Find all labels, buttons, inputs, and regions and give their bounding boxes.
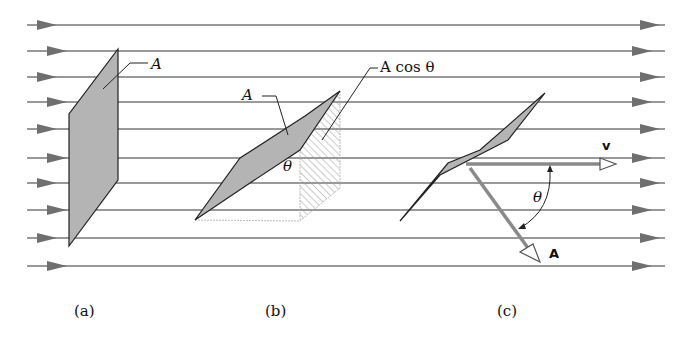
label-projection: A cos θ — [380, 58, 435, 76]
area-c — [400, 93, 545, 221]
label-velocity: v — [602, 138, 610, 153]
label-area-vector: A — [549, 246, 559, 261]
area-vector-arrowhead — [520, 244, 540, 262]
label-area-a: A — [151, 55, 162, 73]
label-area-b: A — [242, 86, 253, 104]
flow-arrowhead-icon — [47, 261, 67, 271]
flow-arrowhead-icon — [37, 124, 57, 134]
flow-arrowhead-icon — [632, 261, 652, 271]
flow-arrowhead-icon — [632, 97, 652, 107]
flow-lines — [27, 20, 665, 271]
velocity-arrowhead — [600, 158, 616, 170]
flow-arrowhead-icon — [632, 153, 652, 163]
area-a — [69, 49, 118, 246]
flow-arrowhead-icon — [37, 20, 57, 30]
flow-arrowhead-icon — [47, 97, 67, 107]
flow-arrowhead-icon — [47, 205, 67, 215]
flow-arrowhead-icon — [640, 233, 660, 243]
flow-arrowhead-icon — [640, 124, 660, 134]
caption-a: (a) — [74, 302, 95, 320]
flow-arrowhead-icon — [640, 72, 660, 82]
projection-base — [195, 220, 300, 221]
flow-arrowhead-icon — [37, 72, 57, 82]
area-vector — [470, 168, 528, 248]
flow-arrowhead-icon — [47, 153, 67, 163]
label-theta-c: θ — [533, 188, 542, 206]
flow-arrowhead-icon — [640, 178, 660, 188]
caption-c: (c) — [497, 302, 517, 320]
label-theta-b: θ — [283, 157, 292, 175]
flow-arrowhead-icon — [640, 20, 660, 30]
flux-diagram — [0, 0, 689, 352]
flow-arrowhead-icon — [47, 46, 67, 56]
flow-arrowhead-icon — [37, 233, 57, 243]
caption-b: (b) — [265, 302, 286, 320]
flow-arrowhead-icon — [632, 46, 652, 56]
flow-arrowhead-icon — [37, 178, 57, 188]
flow-arrowhead-icon — [632, 205, 652, 215]
